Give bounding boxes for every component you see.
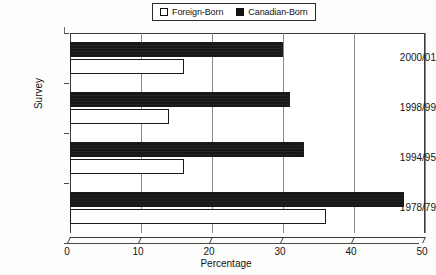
x-axis-line-lower	[64, 243, 419, 244]
x-tick-label-40: 40	[345, 246, 356, 257]
plot-area	[70, 33, 425, 233]
bar-foreign-born-1998-99	[70, 109, 169, 124]
bar-foreign-born-1994-95	[70, 159, 184, 174]
legend-label-foreign-born: Foreign-Born	[172, 7, 223, 17]
x-tick-label-20: 20	[203, 246, 214, 257]
bar-group-1998-99	[70, 83, 425, 133]
y-axis-label-2000-01: 2000/01	[374, 52, 436, 63]
bar-group-1978-79	[70, 183, 425, 233]
x-tick-label-30: 30	[274, 246, 285, 257]
bar-canadian-born-1998-99	[70, 92, 290, 107]
bar-group-2000-01	[70, 33, 425, 83]
x-axis-title: Percentage	[0, 258, 436, 269]
y-axis-tick-1	[64, 83, 69, 84]
chart-figure: Foreign-Born Canadian-Born 2000/011998/9…	[0, 0, 436, 275]
y-axis-label-1994-95: 1994/95	[374, 152, 436, 163]
x-axis-line-upper	[70, 237, 425, 238]
x-tick-label-0: 0	[64, 246, 70, 257]
y-axis-tick-2	[64, 133, 69, 134]
x-axis: 01020304050	[64, 232, 431, 244]
y-axis-label-1978-79: 1978/79	[374, 202, 436, 213]
bar-canadian-born-1978-79	[70, 192, 404, 207]
filled-square-icon	[236, 8, 244, 16]
bar-group-1994-95	[70, 133, 425, 183]
legend-entry-canadian-born: Canadian-Born	[236, 7, 307, 17]
y-axis-tick-0	[64, 33, 69, 34]
y-axis-tick-3	[64, 183, 69, 184]
legend-label-canadian-born: Canadian-Born	[248, 7, 307, 17]
bar-foreign-born-1978-79	[70, 209, 326, 224]
bar-canadian-born-1994-95	[70, 142, 304, 157]
x-tick-label-10: 10	[132, 246, 143, 257]
bar-canadian-born-2000-01	[70, 42, 283, 57]
x-tick-label-50: 50	[416, 246, 427, 257]
chart-legend: Foreign-Born Canadian-Born	[152, 3, 316, 21]
bar-foreign-born-2000-01	[70, 59, 184, 74]
y-axis-title: Survey	[33, 54, 44, 134]
x-axis-title-text: Percentage	[200, 258, 251, 269]
y-axis-label-1998-99: 1998/99	[374, 102, 436, 113]
open-square-icon	[160, 8, 168, 16]
legend-entry-foreign-born: Foreign-Born	[160, 7, 223, 17]
